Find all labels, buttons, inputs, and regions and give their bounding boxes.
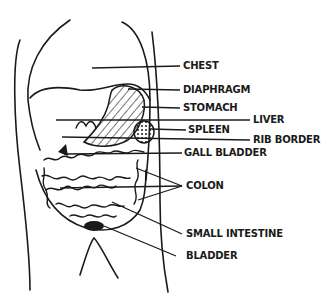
body-outline-right bbox=[152, 32, 168, 292]
label-gall-bladder: GALL BLADDER bbox=[184, 147, 267, 158]
label-chest: CHEST bbox=[183, 60, 219, 71]
label-colon: COLON bbox=[186, 180, 224, 191]
label-rib-border: RIB BORDER bbox=[253, 134, 320, 145]
body-outline-left bbox=[15, 40, 30, 290]
anatomy-diagram bbox=[0, 0, 331, 299]
bladder-shape bbox=[84, 221, 104, 231]
label-stomach: STOMACH bbox=[183, 102, 238, 113]
label-small-intestine: SMALL INTESTINE bbox=[186, 228, 283, 239]
label-spleen: SPLEEN bbox=[188, 124, 230, 135]
label-bladder: BLADDER bbox=[186, 250, 237, 261]
label-liver: LIVER bbox=[253, 114, 284, 125]
label-diaphragm: DIAPHRAGM bbox=[183, 84, 250, 95]
leg-gap bbox=[80, 238, 118, 278]
chest-contour-left bbox=[28, 20, 70, 150]
spleen-shape bbox=[134, 121, 154, 143]
